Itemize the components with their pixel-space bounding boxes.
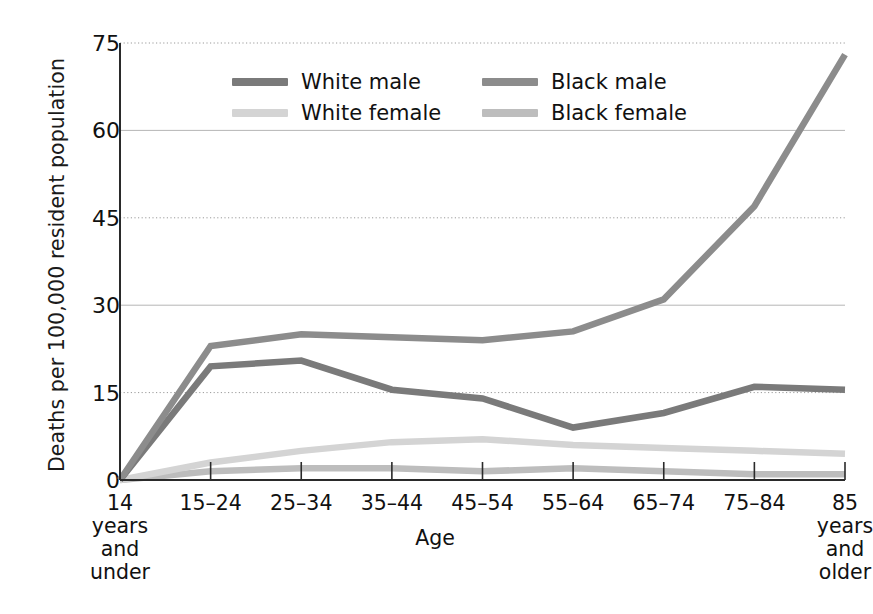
chart-legend: White maleBlack maleWhite femaleBlack fe… xyxy=(232,66,652,128)
legend-label: Black female xyxy=(551,101,687,125)
x-tick-label-7: 75–84 xyxy=(723,492,785,515)
legend-item-black-female[interactable]: Black female xyxy=(482,101,687,125)
legend-item-white-male[interactable]: White male xyxy=(232,70,482,94)
x-tick-label-5: 55–64 xyxy=(542,492,604,515)
legend-item-black-male[interactable]: Black male xyxy=(482,70,687,94)
legend-swatch-icon xyxy=(482,109,538,117)
legend-swatch-icon xyxy=(482,78,538,86)
legend-swatch-icon xyxy=(232,78,288,86)
x-tick-label-6: 65–74 xyxy=(633,492,695,515)
x-tick-label-1: 15–24 xyxy=(179,492,241,515)
legend-swatch-icon xyxy=(232,109,288,117)
x-tick-label-2: 25–34 xyxy=(270,492,332,515)
legend-label: Black male xyxy=(551,70,667,94)
x-tick-label-3: 35–44 xyxy=(361,492,423,515)
legend-label: White male xyxy=(301,70,421,94)
legend-item-white-female[interactable]: White female xyxy=(232,101,482,125)
x-tick-label-4: 45–54 xyxy=(451,492,513,515)
x-axis-title: Age xyxy=(0,526,870,550)
legend-label: White female xyxy=(301,101,441,125)
